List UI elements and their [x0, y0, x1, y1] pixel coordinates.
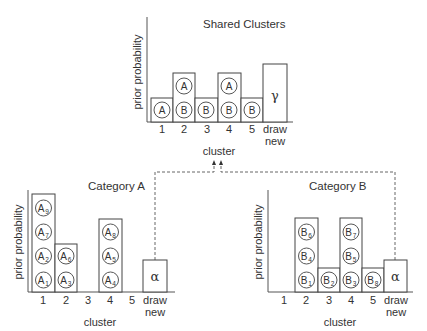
svg-text:B: B: [301, 251, 308, 262]
svg-text:3: 3: [353, 280, 357, 287]
connector-category-a: [155, 164, 214, 260]
category-b-xlabel: cluster: [324, 316, 357, 328]
category-a-tick: new: [145, 306, 165, 318]
alpha-symbol: α: [151, 269, 160, 284]
crp-diagram: Shared Clusters prior probability A B A …: [0, 0, 427, 331]
svg-text:B: B: [323, 275, 330, 286]
shared-tick: 1: [159, 123, 165, 135]
shared-tick: 2: [181, 123, 187, 135]
shared-ylabel: prior probability: [131, 34, 143, 110]
category-a-token: A6: [58, 248, 74, 264]
category-a-token: A4: [103, 272, 119, 288]
category-a-tick: draw: [143, 294, 167, 306]
svg-text:6: 6: [68, 256, 72, 263]
shared-token: B: [221, 102, 237, 118]
shared-clusters-chart: Shared Clusters prior probability A B A …: [131, 17, 293, 157]
category-a-token: A1: [36, 272, 52, 288]
svg-text:A: A: [38, 251, 45, 262]
category-b-token: B5: [343, 248, 359, 264]
svg-text:B: B: [345, 227, 352, 238]
category-a-token: A9: [36, 200, 52, 216]
svg-text:B: B: [249, 105, 256, 116]
svg-text:B: B: [181, 105, 188, 116]
category-b-chart: Category B prior probability B1 B4 B6 B2…: [252, 180, 413, 328]
shared-tick: new: [265, 135, 285, 147]
shared-token: B: [198, 102, 214, 118]
arrow-head-icon: [219, 160, 223, 165]
category-b-tick: 2: [303, 294, 309, 306]
shared-token: A: [221, 78, 237, 94]
category-b-tick: draw: [384, 294, 408, 306]
shared-xlabel: cluster: [203, 145, 236, 157]
category-a-token: A7: [36, 224, 52, 240]
shared-tick: draw: [263, 123, 287, 135]
svg-text:A: A: [105, 251, 112, 262]
category-a-title: Category A: [88, 180, 145, 192]
category-a-tick: 5: [129, 294, 135, 306]
svg-text:B: B: [345, 251, 352, 262]
svg-text:4: 4: [308, 256, 312, 263]
shared-tick: 5: [249, 123, 255, 135]
category-a-tick: 4: [107, 294, 113, 306]
svg-text:8: 8: [112, 232, 116, 239]
svg-text:A: A: [38, 275, 45, 286]
shared-tick: 3: [204, 123, 210, 135]
category-b-token: B8: [365, 272, 381, 288]
category-a-token: A3: [58, 272, 74, 288]
svg-text:A: A: [60, 251, 67, 262]
svg-text:B: B: [345, 275, 352, 286]
category-b-token: B6: [299, 224, 315, 240]
svg-text:B: B: [367, 275, 374, 286]
svg-text:6: 6: [308, 232, 312, 239]
category-b-token: B1: [299, 272, 315, 288]
svg-text:1: 1: [45, 280, 49, 287]
svg-text:A: A: [60, 275, 67, 286]
category-b-tick: 5: [370, 294, 376, 306]
category-a-tick: 3: [85, 294, 91, 306]
svg-text:4: 4: [112, 280, 116, 287]
svg-text:A: A: [105, 275, 112, 286]
category-a-token: A8: [103, 224, 119, 240]
svg-text:A: A: [159, 105, 166, 116]
shared-token: A: [154, 102, 170, 118]
gamma-symbol: γ: [271, 88, 279, 103]
svg-text:A: A: [181, 81, 188, 92]
svg-text:A: A: [226, 81, 233, 92]
category-a-tick: 1: [40, 294, 46, 306]
svg-text:B: B: [301, 227, 308, 238]
svg-text:3: 3: [68, 280, 72, 287]
category-b-tick: 3: [326, 294, 332, 306]
shared-token: B: [244, 102, 260, 118]
svg-text:A: A: [105, 227, 112, 238]
category-b-title: Category B: [309, 180, 367, 192]
category-b-ylabel: prior probability: [252, 204, 264, 280]
category-b-tick: 4: [348, 294, 354, 306]
svg-text:1: 1: [308, 280, 312, 287]
svg-text:9: 9: [45, 208, 49, 215]
category-a-ylabel: prior probability: [12, 204, 24, 280]
category-a-token: A5: [103, 248, 119, 264]
svg-text:7: 7: [353, 232, 357, 239]
category-b-tick: new: [386, 306, 406, 318]
svg-text:2: 2: [45, 256, 49, 263]
category-b-token: B7: [343, 224, 359, 240]
arrow-head-icon: [212, 160, 216, 165]
svg-text:8: 8: [375, 280, 379, 287]
shared-token: A: [176, 78, 192, 94]
category-b-token: B3: [343, 272, 359, 288]
svg-text:7: 7: [45, 232, 49, 239]
svg-text:B: B: [203, 105, 210, 116]
svg-text:2: 2: [331, 280, 335, 287]
category-a-tick: 2: [63, 294, 69, 306]
svg-text:5: 5: [112, 256, 116, 263]
shared-tick: 4: [226, 123, 232, 135]
shared-title: Shared Clusters: [203, 18, 286, 30]
alpha-symbol: α: [391, 269, 400, 284]
svg-text:B: B: [226, 105, 233, 116]
category-b-token: B2: [321, 272, 337, 288]
category-a-chart: Category A prior probability A1 A2 A7 A9…: [12, 180, 175, 328]
svg-text:A: A: [38, 203, 45, 214]
svg-text:5: 5: [353, 256, 357, 263]
category-b-tick: 1: [281, 294, 287, 306]
category-a-token: A2: [36, 248, 52, 264]
